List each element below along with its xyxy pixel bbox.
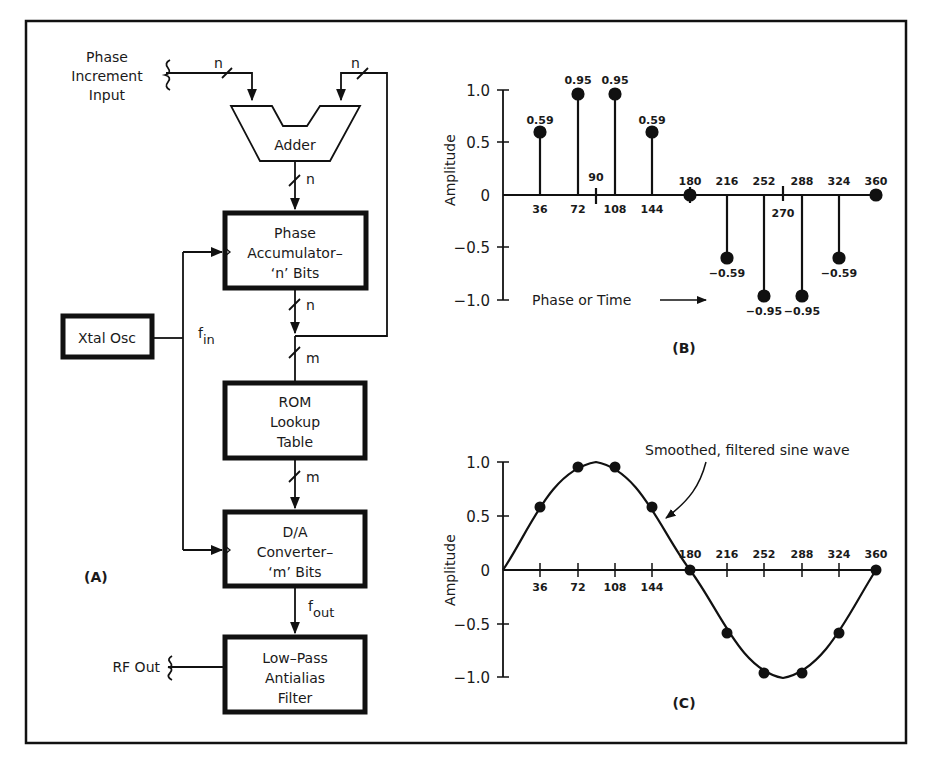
annotation-arrow-icon	[666, 462, 706, 518]
panel-b-xtick: 180	[679, 175, 702, 188]
stem-value-label: 0.59	[638, 114, 665, 127]
rom-label-1: ROM	[279, 394, 312, 410]
lpf-label-3: Filter	[278, 690, 313, 706]
stem-value-label: −0.95	[784, 305, 820, 318]
phase-increment-label-3: Input	[89, 87, 126, 103]
lpf-label-2: Antialias	[265, 670, 325, 686]
dds-figure: Phase Increment Input n n Adder n Phase …	[0, 0, 927, 765]
rf-out-brace-icon	[168, 656, 172, 680]
rom-label-3: Table	[276, 434, 313, 450]
stem-value-label: −0.95	[746, 305, 782, 318]
panel-c-xtick: 72	[570, 581, 585, 594]
panel-c-ylabel: Amplitude	[442, 534, 458, 606]
figure-frame	[26, 21, 906, 743]
lpf-label-1: Low–Pass	[262, 650, 328, 666]
phase-increment-label-2: Increment	[71, 68, 143, 84]
panel-b-xtick: 252	[753, 175, 776, 188]
panel-c-caption: (C)	[672, 695, 695, 711]
rf-out-label: RF Out	[112, 659, 160, 675]
panel-c-ytick: 1.0	[466, 454, 490, 472]
panel-c-xtick: 288	[791, 548, 814, 561]
stem-value-label: 0.95	[564, 74, 591, 87]
panel-b-xtick: 72	[570, 203, 585, 216]
bus-width-acc-out: n	[306, 297, 315, 313]
panel-c-xtick: 36	[532, 581, 548, 594]
panel-b-xtick: 216	[716, 175, 739, 188]
panel-b-caption: (B)	[672, 340, 695, 356]
dac-label-1: D/A	[282, 524, 307, 540]
panel-c-xtick: 360	[865, 548, 888, 561]
phase-increment-label-1: Phase	[86, 49, 128, 65]
panel-b-xtick: 288	[791, 175, 814, 188]
phase-accumulator-label-2: Accumulator–	[247, 245, 342, 261]
f-out-label: fout	[308, 598, 334, 620]
panel-b-xtick: 144	[641, 203, 664, 216]
stem-value-label: −0.59	[709, 267, 745, 280]
panel-c-annotation: Smoothed, filtered sine wave	[645, 442, 850, 458]
bus-width-feedback: n	[351, 55, 360, 71]
panel-c-xtick: 324	[828, 548, 851, 561]
panel-a-caption: (A)	[84, 569, 108, 585]
panel-b-ytick: 1.0	[466, 82, 490, 100]
panel-b-xtick: 90	[588, 171, 604, 184]
input-brace-icon	[165, 60, 170, 90]
panel-b-ytick: 0	[480, 187, 490, 205]
panel-c-xtick: 144	[641, 581, 664, 594]
adder-label: Adder	[274, 137, 316, 153]
stem-value-label: 0.59	[526, 114, 553, 127]
panel-b-ytick: 0.5	[466, 134, 490, 152]
bus-width-adder-out: n	[306, 171, 315, 187]
panel-a-block-diagram: Phase Increment Input n n Adder n Phase …	[63, 49, 387, 712]
panel-b-xtick: 36	[532, 203, 548, 216]
panel-c-xtick: 180	[679, 548, 702, 561]
phase-accumulator-label-3: ‘n’ Bits	[271, 265, 320, 281]
panel-b-ylabel: Amplitude	[442, 134, 458, 206]
panel-c-xtick: 216	[716, 548, 739, 561]
panel-b-xtick: 360	[865, 175, 888, 188]
panel-c-ytick: −0.5	[454, 616, 490, 634]
bus-width-input: n	[214, 55, 223, 71]
panel-c-xtick: 252	[753, 548, 776, 561]
panel-c-ytick: 0	[480, 562, 490, 580]
bus-width-rom-out: m	[306, 469, 320, 485]
panel-b-ytick: −0.5	[454, 239, 490, 257]
dac-label-3: ‘m’ Bits	[268, 564, 321, 580]
panel-b-xtick: 324	[828, 175, 851, 188]
panel-c-ytick: −1.0	[454, 669, 490, 687]
phase-accumulator-label-1: Phase	[274, 225, 316, 241]
panel-b-xtick: 108	[604, 203, 627, 216]
rom-label-2: Lookup	[270, 414, 320, 430]
f-in-label: fin	[198, 325, 215, 347]
panel-b-stem-plot: 1.0 0.5 0 −0.5 −1.0 Amplitude 0.59 0.95 …	[442, 74, 888, 356]
stem-value-label: 0.95	[601, 74, 628, 87]
panel-b-xtick: 270	[772, 207, 795, 220]
bus-width-rom-in: m	[306, 350, 320, 366]
panel-b-ytick: −1.0	[454, 292, 490, 310]
panel-b-xlabel: Phase or Time	[532, 292, 631, 308]
panel-c-xtick: 108	[604, 581, 627, 594]
panel-c-sine-wave: 1.0 0.5 0 −0.5 −1.0 Amplitude 36 72 108 …	[442, 442, 888, 711]
xtal-osc-label: Xtal Osc	[78, 330, 136, 346]
dac-label-2: Converter–	[257, 544, 334, 560]
panel-c-ytick: 0.5	[466, 508, 490, 526]
stem-value-label: −0.59	[821, 267, 857, 280]
